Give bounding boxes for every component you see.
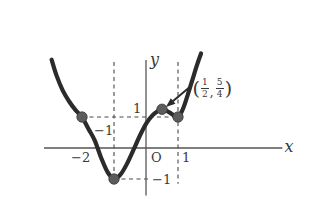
graph-figure: x y O −2 1 −1 1 −1 ( 1 2 , 5 4 ) bbox=[0, 0, 313, 199]
x-tick-label-neg2: −2 bbox=[71, 151, 90, 164]
open-paren: ( bbox=[192, 79, 199, 98]
cubic-graph-svg bbox=[0, 0, 313, 199]
marked-point bbox=[157, 104, 167, 114]
marked-point bbox=[77, 112, 87, 122]
point-coordinate-label: ( 1 2 , 5 4 ) bbox=[192, 78, 232, 99]
fraction-denominator: 4 bbox=[216, 90, 224, 99]
x-tick-label-neg1: −1 bbox=[94, 124, 113, 137]
fraction-one-half: 1 2 bbox=[201, 78, 209, 99]
x-axis-label: x bbox=[284, 139, 293, 155]
marked-point bbox=[173, 112, 183, 122]
origin-label: O bbox=[151, 151, 162, 164]
fraction-denominator: 2 bbox=[201, 90, 209, 99]
y-axis-label: y bbox=[150, 52, 159, 68]
y-tick-label-1: 1 bbox=[133, 102, 141, 115]
marked-point bbox=[109, 174, 119, 184]
x-tick-label-1: 1 bbox=[182, 151, 190, 164]
fraction-numerator: 5 bbox=[216, 78, 224, 87]
fraction-five-fourths: 5 4 bbox=[216, 78, 224, 99]
label-comma: , bbox=[210, 86, 214, 99]
y-tick-label-neg1: −1 bbox=[152, 173, 171, 186]
close-paren: ) bbox=[225, 79, 232, 98]
fraction-numerator: 1 bbox=[201, 78, 209, 87]
